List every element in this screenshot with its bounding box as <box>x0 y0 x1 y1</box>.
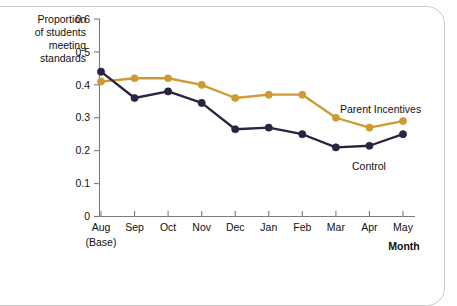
data-point-0-1 <box>131 75 138 82</box>
series-annotation-parent-incentives: Parent Incentives <box>340 103 421 115</box>
series-annotation-control: Control <box>352 160 386 172</box>
data-point-0-9 <box>399 117 406 124</box>
x-axis-tick-sublabels: (Base) <box>86 236 117 248</box>
data-point-1-7 <box>332 144 339 151</box>
data-point-0-7 <box>332 114 339 121</box>
x-tick-label-1: Sep <box>125 221 144 233</box>
y-tick-label-3: 0.3 <box>75 111 90 123</box>
x-axis-tick-labels: AugSepOctNovDecJanFebMarAprMay <box>92 221 414 233</box>
data-point-1-6 <box>299 131 306 138</box>
data-point-1-9 <box>399 131 406 138</box>
y-tick-label-2: 0.2 <box>75 144 90 156</box>
data-point-0-5 <box>265 91 272 98</box>
data-point-0-6 <box>299 91 306 98</box>
y-axis-label-line-1: of students <box>35 26 86 38</box>
y-axis-ticks <box>94 19 100 217</box>
x-tick-label-4: Dec <box>226 221 245 233</box>
y-tick-label-1: 0.1 <box>75 177 90 189</box>
data-point-1-3 <box>198 99 205 106</box>
x-axis-label: Month <box>388 240 420 252</box>
data-point-0-0 <box>97 78 104 85</box>
x-tick-label-2: Oct <box>160 221 176 233</box>
y-tick-label-6: 0.6 <box>75 13 90 25</box>
data-point-1-5 <box>265 124 272 131</box>
x-tick-label-9: May <box>393 221 414 233</box>
data-point-1-2 <box>165 88 172 95</box>
data-point-0-3 <box>198 81 205 88</box>
y-tick-label-4: 0.4 <box>75 79 90 91</box>
x-tick-sublabel-0: (Base) <box>86 236 117 248</box>
x-axis-ticks <box>101 211 403 217</box>
data-point-1-4 <box>232 126 239 133</box>
data-point-0-8 <box>366 124 373 131</box>
y-tick-label-0: 0 <box>84 210 90 222</box>
x-tick-label-6: Feb <box>293 221 311 233</box>
x-tick-label-3: Nov <box>192 221 211 233</box>
x-tick-label-5: Jan <box>260 221 277 233</box>
data-point-1-0 <box>97 68 104 75</box>
x-tick-label-0: Aug <box>92 221 111 233</box>
y-tick-label-5: 0.5 <box>75 46 90 58</box>
data-point-1-1 <box>131 94 138 101</box>
x-tick-label-7: Mar <box>327 221 346 233</box>
data-point-0-4 <box>232 94 239 101</box>
data-point-1-8 <box>366 142 373 149</box>
x-tick-label-8: Apr <box>361 221 378 233</box>
data-point-0-2 <box>165 75 172 82</box>
